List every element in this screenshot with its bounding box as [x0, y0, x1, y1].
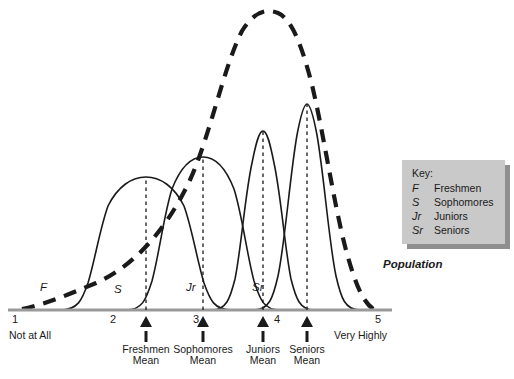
x-tick-label-4: 4 — [274, 314, 280, 326]
legend-item-freshmen: F Freshmen — [412, 182, 505, 194]
legend-item-seniors: Sr Seniors — [412, 224, 505, 236]
mean-label-seniors-line2: Mean — [272, 355, 342, 366]
x-tick-label-3: 3 — [193, 314, 199, 326]
legend-name-sophomores: Sophomores — [434, 196, 494, 208]
x-tick-label-2: 2 — [110, 314, 116, 326]
legend-box: Key: F Freshmen S Sophomores Jr Juniors … — [402, 160, 505, 244]
mean-marker-triangle-seniors — [301, 316, 313, 327]
curve-tag-freshmen: F — [40, 281, 47, 293]
legend-content: Key: F Freshmen S Sophomores Jr Juniors … — [402, 160, 505, 236]
x-tick-label-1: 1 — [12, 314, 18, 326]
legend-name-seniors: Seniors — [434, 224, 470, 236]
legend-symbol-freshmen: F — [412, 182, 434, 194]
mean-marker-triangle-juniors — [257, 316, 269, 327]
legend-symbol-juniors: Jr — [412, 210, 434, 222]
x-axis-right-label: Very Highly — [334, 330, 387, 341]
mean-label-seniors: Seniors Mean — [272, 344, 342, 366]
legend-symbol-sophomores: S — [412, 196, 434, 208]
x-axis-left-label: Not at All — [9, 330, 51, 341]
legend-title: Key: — [412, 167, 505, 179]
legend-symbol-seniors: Sr — [412, 224, 434, 236]
legend-item-sophomores: S Sophomores — [412, 196, 505, 208]
chart-container: 1 2 3 4 5 Not at All Very Highly F S Jr … — [0, 0, 514, 379]
legend-name-freshmen: Freshmen — [434, 182, 481, 194]
mean-marker-triangle-freshmen — [140, 316, 152, 327]
curve-tag-juniors: Jr — [186, 281, 196, 293]
population-curve-label: Population — [383, 258, 442, 270]
curve-tag-seniors: Sr — [252, 281, 264, 293]
legend-item-juniors: Jr Juniors — [412, 210, 505, 222]
curve-tag-sophomores: S — [114, 283, 122, 295]
x-tick-label-5: 5 — [375, 314, 381, 326]
legend-name-juniors: Juniors — [434, 210, 468, 222]
